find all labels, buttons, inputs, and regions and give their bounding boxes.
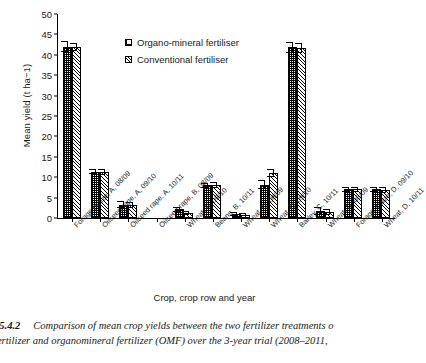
caption-text-1: Comparison of mean crop yields between t… (33, 320, 333, 331)
x-tick-cell: Oilseed rape, B, 08/09 (143, 221, 171, 291)
caption-text-2: nal fertilizer and organomineral fertili… (0, 335, 328, 346)
y-tick-label: 20 (26, 131, 57, 142)
y-tick-mark (54, 177, 57, 178)
x-tick-cell: Forage maize, A, 08/09 (58, 221, 86, 291)
y-tick-mark (54, 197, 57, 198)
caption-figure-number: e 5.4.2 (0, 320, 20, 331)
y-tick-mark (54, 75, 57, 76)
x-axis-title: Crop, crop row and year (0, 292, 409, 303)
x-tick-cell: Oilseed rape, A, 09/10 (86, 221, 114, 291)
figure-caption: e 5.4.2Comparison of mean crop yields be… (0, 318, 409, 348)
legend-swatch-diagonal-hatch-icon (125, 56, 132, 63)
x-tick-cell: Oilseed rape, A, 10/11 (114, 221, 142, 291)
bar (288, 47, 297, 218)
legend-item-omf: Organo-mineral fertiliser (125, 34, 239, 51)
y-tick-label: 15 (26, 151, 57, 162)
bar-omf[interactable] (63, 47, 72, 218)
y-tick-label: 10 (26, 172, 57, 183)
bar-group (58, 14, 86, 218)
legend-label-conventional: Conventional fertiliser (137, 51, 228, 68)
y-tick-label: 50 (26, 9, 57, 20)
x-tick-cell: Wheat, C, 09/10 (255, 221, 283, 291)
y-tick-mark (54, 136, 57, 137)
y-tick-label: 40 (26, 49, 57, 60)
error-bar (298, 43, 305, 53)
bar (72, 47, 81, 218)
error-bar (185, 211, 192, 215)
bar (63, 47, 72, 218)
x-axis-tick-labels: Forage maize, A, 08/09Oilseed rape, A, 0… (58, 221, 396, 291)
caption-line-1: e 5.4.2Comparison of mean crop yields be… (0, 318, 409, 333)
x-tick-cell: Barley, C, 10/11 (283, 221, 311, 291)
y-tick-label: 5 (26, 192, 57, 203)
chart-figure: Mean yield (t ha−1) 05101520253035404550… (0, 0, 409, 315)
caption-line-2: nal fertilizer and organomineral fertili… (0, 333, 409, 348)
y-tick-label: 25 (26, 111, 57, 122)
bar-conv[interactable] (72, 47, 81, 218)
x-tick-cell: Wheat, D, 08/09 (312, 221, 340, 291)
x-tick-cell: Wheat, D, 10/11 (368, 221, 396, 291)
x-tick-cell: Wheat, C, 08/09 (227, 221, 255, 291)
legend-label-omf: Organo-mineral fertiliser (137, 34, 239, 51)
y-tick-mark (54, 54, 57, 55)
y-tick-mark (54, 116, 57, 117)
error-bar (73, 43, 80, 51)
y-tick-mark (54, 95, 57, 96)
y-tick-mark (54, 34, 57, 35)
y-tick-label: 0 (26, 213, 57, 224)
x-tick-cell: Beans, B, 10/11 (199, 221, 227, 291)
error-bar (261, 180, 268, 188)
error-bar (270, 169, 277, 177)
legend-swatch-cross-hatch-icon (125, 39, 132, 46)
y-tick-label: 35 (26, 70, 57, 81)
x-tick-cell: Wheat, B, 09/10 (171, 221, 199, 291)
legend-item-conventional: Conventional fertiliser (125, 51, 239, 68)
y-tick-label: 30 (26, 90, 57, 101)
y-tick-mark (54, 218, 57, 219)
bar-omf[interactable] (288, 47, 297, 218)
y-tick-mark (54, 156, 57, 157)
chart-legend: Organo-mineral fertiliser Conventional f… (125, 34, 239, 68)
y-tick-label: 45 (26, 29, 57, 40)
error-bar (326, 209, 333, 215)
y-tick-mark (54, 14, 57, 15)
error-bar (101, 169, 108, 175)
x-tick-cell: Forage maize, D, 09/10 (340, 221, 368, 291)
